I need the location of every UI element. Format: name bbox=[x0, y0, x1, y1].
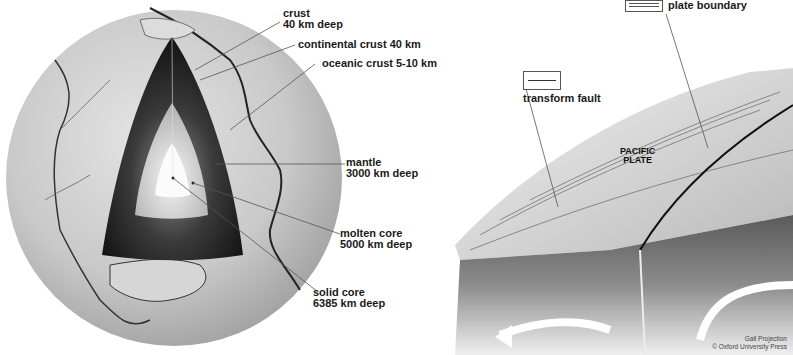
label-solid-core-depth: 6385 km deep bbox=[313, 298, 385, 309]
plate-boundary-key-swatch bbox=[625, 0, 663, 12]
label-mantle: mantle 3000 km deep bbox=[346, 157, 418, 179]
transform-fault-key-swatch bbox=[523, 71, 561, 90]
label-crust-depth: 40 km deep bbox=[283, 19, 343, 30]
label-crust: crust 40 km deep bbox=[283, 8, 343, 30]
label-solid-core: solid core 6385 km deep bbox=[313, 287, 385, 309]
plate-name-line2: PLATE bbox=[620, 156, 655, 165]
projection-credit: Gall Projection bbox=[712, 335, 787, 343]
label-continental-crust: continental crust 40 km bbox=[298, 39, 421, 50]
plate-boundary-key-label: plate boundary bbox=[668, 0, 747, 11]
label-molten-core-depth: 5000 km deep bbox=[340, 239, 412, 250]
label-molten-core: molten core 5000 km deep bbox=[340, 228, 412, 250]
label-oceanic-crust: oceanic crust 5-10 km bbox=[322, 58, 437, 69]
publisher-credit: © Oxford University Press bbox=[712, 343, 787, 351]
label-continental-crust-title: continental crust 40 km bbox=[298, 39, 421, 50]
credits: Gall Projection © Oxford University Pres… bbox=[712, 335, 787, 351]
label-mantle-depth: 3000 km deep bbox=[346, 168, 418, 179]
plate-diagram bbox=[455, 14, 793, 355]
label-oceanic-crust-title: oceanic crust 5-10 km bbox=[322, 58, 437, 69]
pacific-plate-label: PACIFIC PLATE bbox=[620, 147, 655, 165]
transform-fault-key-label: transform fault bbox=[523, 93, 601, 104]
